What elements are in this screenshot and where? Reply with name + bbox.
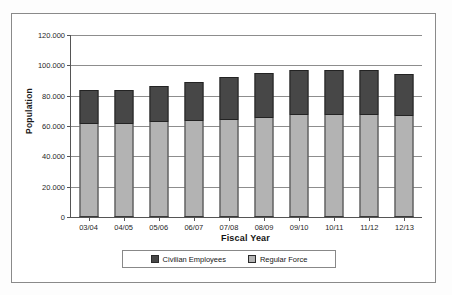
bar-slot <box>211 35 246 217</box>
bar-stack[interactable] <box>395 74 414 217</box>
y-axis-tick-label: 100.000 <box>38 61 65 70</box>
bar-segment-civilian-employees[interactable] <box>79 90 98 124</box>
x-axis-tick-mark <box>229 217 230 221</box>
y-axis-tick-label: 80.000 <box>42 91 65 100</box>
legend-swatch-icon-regular-force <box>248 255 256 263</box>
x-axis-tick-mark <box>89 217 90 221</box>
bar-stack[interactable] <box>114 90 133 217</box>
bar-segment-regular-force[interactable] <box>114 124 133 217</box>
bar-slot <box>317 35 352 217</box>
x-axis-title: Fiscal Year <box>70 233 421 243</box>
bar-slot <box>106 35 141 217</box>
bar-stack[interactable] <box>219 77 238 217</box>
x-axis-tick-label: 10/11 <box>325 223 343 232</box>
y-axis-tick-label: 120.000 <box>38 31 65 40</box>
chart-legend: Civilian Employees Regular Force <box>122 250 336 268</box>
bars-group <box>71 35 422 217</box>
bar-segment-regular-force[interactable] <box>255 118 274 217</box>
bar-slot <box>71 35 106 217</box>
bar-stack[interactable] <box>325 70 344 217</box>
plot-area: 020.00040.00060.00080.000100.000120.000 … <box>70 35 422 218</box>
x-axis-tick-mark <box>124 217 125 221</box>
bar-slot <box>247 35 282 217</box>
bar-segment-regular-force[interactable] <box>184 121 203 217</box>
bar-segment-regular-force[interactable] <box>360 115 379 217</box>
chart-figure-frame: Population 020.00040.00060.00080.000100.… <box>11 13 436 283</box>
bar-segment-civilian-employees[interactable] <box>325 70 344 115</box>
x-axis-tick-label: 12/13 <box>395 223 414 232</box>
x-axis-tick-mark <box>159 217 160 221</box>
bar-segment-regular-force[interactable] <box>149 122 168 217</box>
x-axis-tick-mark <box>334 217 335 221</box>
bar-stack[interactable] <box>360 70 379 217</box>
bar-stack[interactable] <box>79 90 98 217</box>
y-axis-tick-label: 20.000 <box>42 182 65 191</box>
x-axis-tick-mark <box>404 217 405 221</box>
bar-segment-civilian-employees[interactable] <box>290 70 309 115</box>
legend-swatch-icon-civilian-employees <box>151 255 159 263</box>
bar-segment-regular-force[interactable] <box>395 116 414 217</box>
x-axis-tick-label: 09/10 <box>290 223 309 232</box>
x-axis-tick-label: 03/04 <box>79 223 98 232</box>
bar-segment-civilian-employees[interactable] <box>184 82 203 121</box>
bar-slot <box>176 35 211 217</box>
bar-stack[interactable] <box>149 86 168 217</box>
x-axis-tick-mark <box>299 217 300 221</box>
y-axis-tick-mark <box>67 217 71 218</box>
y-axis-tick-label: 40.000 <box>42 152 65 161</box>
x-axis-tick-label: 06/07 <box>184 223 203 232</box>
legend-label-regular-force: Regular Force <box>260 255 308 264</box>
chart-plot-wrapper: Population 020.00040.00060.00080.000100.… <box>12 14 437 284</box>
bar-stack[interactable] <box>290 70 309 217</box>
x-axis-tick-label: 05/06 <box>149 223 168 232</box>
legend-label-civilian-employees: Civilian Employees <box>163 255 226 264</box>
bar-segment-civilian-employees[interactable] <box>114 90 133 124</box>
legend-item-regular-force: Regular Force <box>248 255 308 264</box>
bar-segment-civilian-employees[interactable] <box>255 73 274 118</box>
bar-stack[interactable] <box>255 73 274 217</box>
bar-segment-civilian-employees[interactable] <box>219 77 238 119</box>
bar-segment-civilian-employees[interactable] <box>149 86 168 122</box>
legend-item-civilian-employees: Civilian Employees <box>151 255 226 264</box>
bar-segment-regular-force[interactable] <box>79 124 98 217</box>
x-axis-tick-mark <box>264 217 265 221</box>
y-axis-tick-label: 0 <box>61 213 65 222</box>
x-axis-tick-mark <box>194 217 195 221</box>
bar-segment-regular-force[interactable] <box>219 120 238 217</box>
x-axis-tick-label: 04/05 <box>114 223 133 232</box>
x-axis-tick-label: 07/08 <box>220 223 239 232</box>
x-axis-tick-label: 11/12 <box>360 223 378 232</box>
bar-slot <box>141 35 176 217</box>
bar-segment-civilian-employees[interactable] <box>395 74 414 116</box>
bar-segment-regular-force[interactable] <box>325 115 344 217</box>
bar-slot <box>352 35 387 217</box>
x-axis-tick-mark <box>369 217 370 221</box>
y-axis-title: Population <box>24 61 34 161</box>
y-axis-tick-label: 60.000 <box>42 122 65 131</box>
bar-segment-regular-force[interactable] <box>290 115 309 217</box>
bar-segment-civilian-employees[interactable] <box>360 70 379 116</box>
bar-slot <box>282 35 317 217</box>
bar-slot <box>387 35 422 217</box>
x-axis-tick-label: 08/09 <box>255 223 274 232</box>
bar-stack[interactable] <box>184 82 203 217</box>
